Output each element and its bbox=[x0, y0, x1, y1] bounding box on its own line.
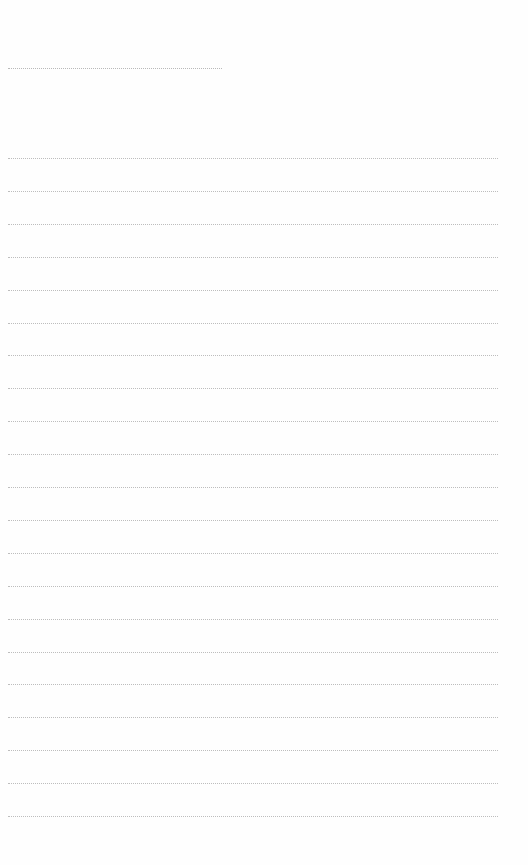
ruled-line[interactable] bbox=[8, 355, 498, 356]
ruled-line[interactable] bbox=[8, 257, 498, 258]
ruled-line[interactable] bbox=[8, 454, 498, 455]
ruled-line[interactable] bbox=[8, 553, 498, 554]
ruled-line[interactable] bbox=[8, 191, 498, 192]
ruled-line[interactable] bbox=[8, 652, 498, 653]
ruled-line[interactable] bbox=[8, 388, 498, 389]
ruled-line[interactable] bbox=[8, 520, 498, 521]
ruled-line[interactable] bbox=[8, 224, 498, 225]
ruled-line[interactable] bbox=[8, 717, 498, 718]
ruled-line[interactable] bbox=[8, 684, 498, 685]
title-line[interactable] bbox=[8, 68, 222, 69]
ruled-line[interactable] bbox=[8, 421, 498, 422]
ruled-line[interactable] bbox=[8, 158, 498, 159]
ruled-line[interactable] bbox=[8, 619, 498, 620]
ruled-line[interactable] bbox=[8, 586, 498, 587]
ruled-line[interactable] bbox=[8, 750, 498, 751]
ruled-line[interactable] bbox=[8, 783, 498, 784]
ruled-line[interactable] bbox=[8, 487, 498, 488]
lined-page bbox=[0, 0, 528, 865]
ruled-line[interactable] bbox=[8, 323, 498, 324]
ruled-line[interactable] bbox=[8, 816, 498, 817]
ruled-line[interactable] bbox=[8, 290, 498, 291]
